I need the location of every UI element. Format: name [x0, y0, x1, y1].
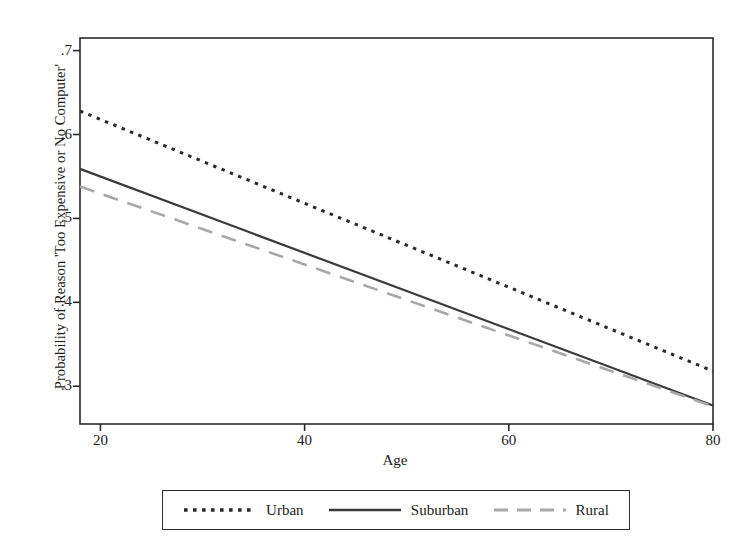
legend-label-urban: Urban	[266, 502, 304, 519]
legend-label-rural: Rural	[576, 502, 609, 519]
legend-entry-suburban: Suburban	[328, 502, 469, 519]
series-line-rural	[80, 187, 713, 407]
legend-key-rural-dashed-line	[493, 503, 567, 517]
legend-entry-urban: Urban	[183, 502, 304, 519]
plot-area	[0, 0, 739, 543]
plot-frame	[80, 38, 713, 424]
legend-key-suburban-solid-line	[328, 503, 402, 517]
chart-legend: Urban Suburban Rural	[162, 490, 630, 530]
legend-entry-rural: Rural	[493, 502, 609, 519]
series-line-urban	[80, 111, 713, 371]
series-line-suburban	[80, 169, 713, 406]
legend-label-suburban: Suburban	[411, 502, 469, 519]
chart-figure: Probability of Reason 'Too Expensive or …	[0, 0, 739, 543]
legend-key-urban-dotted-line	[183, 503, 257, 517]
